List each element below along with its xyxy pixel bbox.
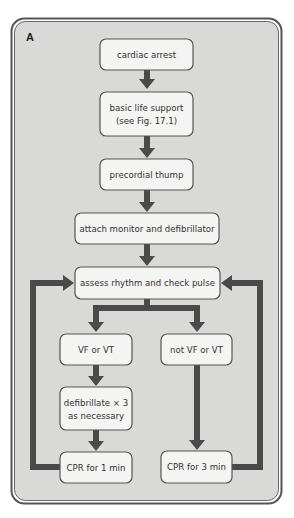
node-assess-rhythm: assess rhythm and check pulse — [75, 267, 220, 299]
panel-label: A — [26, 31, 34, 43]
node-label: attach monitor and defibrillator — [79, 224, 215, 234]
node-label: CPR for 3 min — [167, 462, 226, 472]
node-cpr-3min: CPR for 3 min — [161, 451, 232, 483]
node-label: not VF or VT — [170, 345, 224, 355]
node-attach-monitor: attach monitor and defibrillator — [75, 213, 219, 244]
node-label: basic life support — [110, 103, 184, 113]
node-cpr-1min: CPR for 1 min — [60, 452, 132, 483]
node-basic-life-support: basic life support (see Fig. 17.1) — [100, 92, 193, 136]
node-label: assess rhythm and check pulse — [80, 278, 215, 288]
node-not-vf-vt: not VF or VT — [161, 334, 232, 365]
node-label: (see Fig. 17.1) — [116, 116, 177, 126]
node-cardiac-arrest: cardiac arrest — [100, 39, 193, 70]
node-label: defibrillate × 3 — [64, 398, 128, 408]
node-precordial-thump: precordial thump — [100, 159, 193, 190]
node-vf-vt: VF or VT — [60, 334, 132, 365]
node-defibrillate: defibrillate × 3 as necessary — [60, 387, 132, 430]
node-label: VF or VT — [78, 345, 115, 355]
node-label: precordial thump — [110, 170, 184, 180]
flowchart-diagram: A — [0, 0, 294, 518]
node-label: CPR for 1 min — [67, 463, 126, 473]
node-label: as necessary — [68, 411, 124, 421]
node-label: cardiac arrest — [117, 50, 177, 60]
